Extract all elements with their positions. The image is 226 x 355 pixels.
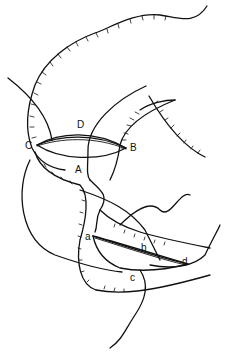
- lower-left-flap: [35, 152, 96, 290]
- lower-contour: [96, 275, 210, 292]
- surgical-diagram: C D B A a b c d: [0, 0, 226, 355]
- suture-thread-2: [120, 194, 190, 225]
- suture-thread-1: [90, 180, 104, 232]
- center-suture-line: [88, 86, 147, 180]
- label-B: B: [130, 143, 137, 153]
- label-a: a: [85, 232, 91, 242]
- label-c: c: [130, 273, 135, 283]
- right-cheek-contour: [149, 96, 205, 157]
- label-D: D: [77, 120, 84, 130]
- left-crossing-line: [8, 78, 52, 140]
- label-C: C: [25, 141, 32, 151]
- label-d: d: [182, 257, 188, 267]
- label-A: A: [75, 165, 82, 175]
- right-flap: [110, 100, 175, 180]
- upper-defect: [37, 135, 126, 158]
- suture-thread-4: [110, 270, 145, 348]
- label-b: b: [141, 243, 147, 253]
- diagram-drawing: [0, 0, 226, 355]
